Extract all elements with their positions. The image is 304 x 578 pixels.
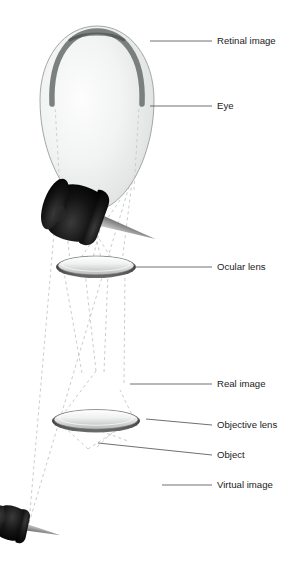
label-real-image: Real image: [217, 378, 266, 389]
objective-lens: [52, 410, 140, 433]
label-ocular-lens: Ocular lens: [217, 261, 266, 272]
leader-object: [98, 443, 212, 455]
ray-ocular-mid-l: [85, 272, 96, 371]
label-retinal-image: Retinal image: [217, 35, 276, 46]
microscope-ray-diagram: Retinal image Eye Ocular lens Real image…: [0, 0, 304, 578]
ray-ocular-mid-r: [104, 272, 108, 372]
label-object: Object: [217, 449, 245, 460]
ray-ocular-right: [124, 272, 125, 383]
ray-ocular-left: [64, 272, 82, 373]
leader-objective-lens: [146, 419, 212, 425]
label-group: Retinal image Eye Ocular lens Real image…: [217, 35, 277, 490]
label-objective-lens: Objective lens: [217, 419, 277, 430]
ocular-lens: [56, 256, 136, 278]
label-virtual-image: Virtual image: [217, 479, 273, 490]
object-pushpin: [0, 502, 64, 551]
label-eye: Eye: [217, 100, 234, 111]
